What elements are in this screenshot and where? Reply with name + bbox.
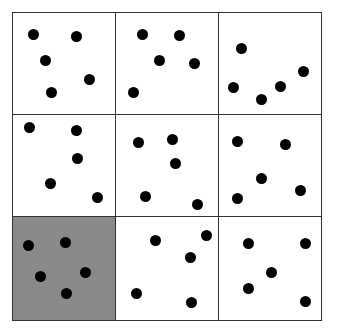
dot-icon — [243, 238, 254, 249]
dot-icon — [256, 94, 267, 105]
dot-icon — [275, 81, 286, 92]
dot-icon — [295, 185, 306, 196]
dot-icon — [71, 125, 82, 136]
dot-icon — [154, 55, 165, 66]
dot-icon — [232, 193, 243, 204]
dot-grid — [0, 0, 338, 334]
grid-cell-r0-c2 — [218, 12, 322, 115]
dot-icon — [174, 30, 185, 41]
dot-icon — [60, 237, 71, 248]
dot-icon — [137, 29, 148, 40]
dot-icon — [167, 134, 178, 145]
dot-icon — [192, 199, 203, 210]
dot-icon — [266, 267, 277, 278]
dot-icon — [92, 192, 103, 203]
dot-icon — [40, 55, 51, 66]
dot-icon — [185, 252, 196, 263]
dot-icon — [84, 74, 95, 85]
dot-icon — [24, 122, 35, 133]
dot-icon — [280, 139, 291, 150]
dot-icon — [72, 153, 83, 164]
dot-icon — [186, 297, 197, 308]
dot-icon — [46, 87, 57, 98]
dot-icon — [256, 173, 267, 184]
dot-icon — [236, 43, 247, 54]
dot-icon — [71, 31, 82, 42]
dot-icon — [300, 238, 311, 249]
dot-icon — [35, 271, 46, 282]
grid-cell-r2-c0-highlighted — [12, 216, 116, 321]
dot-icon — [232, 136, 243, 147]
dot-icon — [131, 288, 142, 299]
grid-cell-r0-c1 — [115, 12, 219, 115]
dot-icon — [243, 283, 254, 294]
dot-icon — [189, 58, 200, 69]
dot-icon — [45, 178, 56, 189]
dot-icon — [298, 66, 309, 77]
dot-icon — [228, 82, 239, 93]
grid-cell-r1-c1 — [115, 114, 219, 217]
dot-icon — [128, 87, 139, 98]
dot-icon — [61, 288, 72, 299]
dot-icon — [150, 235, 161, 246]
dot-icon — [201, 230, 212, 241]
grid-cell-r0-c0 — [12, 12, 116, 115]
dot-icon — [170, 158, 181, 169]
dot-icon — [23, 240, 34, 251]
dot-icon — [80, 267, 91, 278]
dot-icon — [28, 29, 39, 40]
dot-icon — [133, 137, 144, 148]
dot-icon — [140, 191, 151, 202]
dot-icon — [300, 296, 311, 307]
